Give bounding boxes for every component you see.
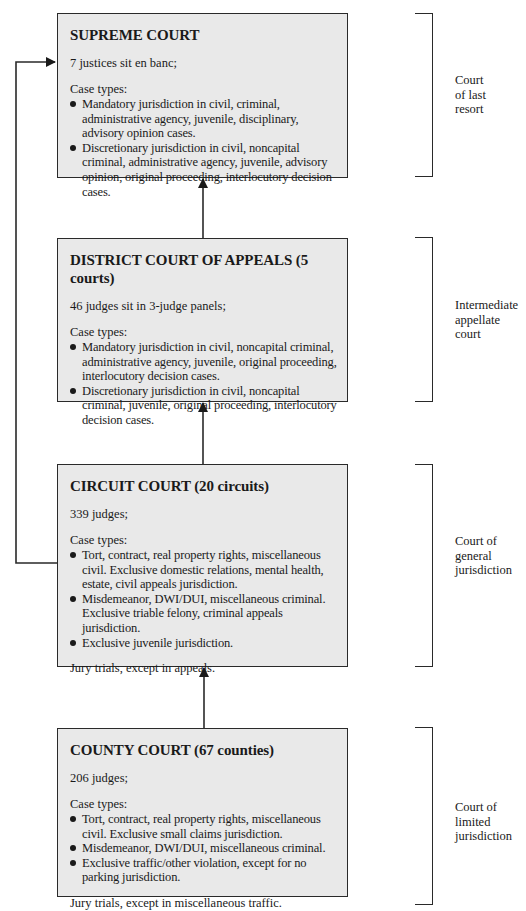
case-types-label: Case types:	[70, 797, 337, 812]
case-type-item: Misdemeanor, DWI/DUI, miscellaneous crim…	[68, 592, 337, 636]
tier-bracket-last-resort	[415, 13, 433, 177]
tier-label-last-resort: Court of last resort	[455, 73, 486, 117]
bullet-icon	[70, 596, 76, 602]
case-type-item: Exclusive juvenile jurisdiction.	[68, 636, 337, 651]
case-types-label: Case types:	[70, 533, 337, 548]
bullet-icon	[70, 101, 76, 107]
bullet-icon	[70, 344, 76, 350]
circuit-court-box: CIRCUIT COURT (20 circuits) 339 judges; …	[57, 464, 348, 667]
case-types-label: Case types:	[70, 325, 337, 340]
tier-bracket-intermediate-appellate	[415, 237, 433, 402]
case-type-item: Tort, contract, real property rights, mi…	[68, 812, 337, 841]
case-types-list: Mandatory jurisdiction in civil, noncapi…	[68, 340, 337, 428]
court-judges: 46 judges sit in 3-judge panels;	[70, 299, 337, 314]
case-type-item: Misdemeanor, DWI/DUI, miscellaneous crim…	[68, 841, 337, 856]
bullet-icon	[70, 388, 76, 394]
case-type-item: Exclusive traffic/other violation, excep…	[68, 856, 337, 885]
supreme-court-box: SUPREME COURT 7 justices sit en banc; Ca…	[57, 13, 348, 178]
bullet-icon	[70, 816, 76, 822]
tier-label-limited-jurisdiction: Court of limited jurisdiction	[455, 800, 512, 844]
court-title: SUPREME COURT	[70, 26, 337, 44]
case-type-item: Mandatory jurisdiction in civil, crimina…	[68, 97, 337, 141]
case-type-item: Discretionary jurisdiction in civil, non…	[68, 384, 337, 428]
case-type-item: Tort, contract, real property rights, mi…	[68, 548, 337, 592]
bullet-icon	[70, 640, 76, 646]
case-type-item: Mandatory jurisdiction in civil, noncapi…	[68, 340, 337, 384]
court-judges: 7 justices sit en banc;	[70, 56, 337, 71]
county-court-box: COUNTY COURT (67 counties) 206 judges; C…	[57, 728, 348, 897]
tier-label-general-jurisdiction: Court of general jurisdiction	[455, 534, 512, 578]
court-title: CIRCUIT COURT (20 circuits)	[70, 477, 337, 495]
tier-bracket-limited-jurisdiction	[415, 727, 433, 905]
court-judges: 339 judges;	[70, 507, 337, 522]
court-note: Jury trials, except in appeals.	[70, 661, 337, 676]
court-note: Jury trials, except in miscellaneous tra…	[70, 896, 337, 911]
court-title: COUNTY COURT (67 counties)	[70, 741, 337, 759]
bullet-icon	[70, 845, 76, 851]
bullet-icon	[70, 860, 76, 866]
bullet-icon	[70, 145, 76, 151]
court-judges: 206 judges;	[70, 771, 337, 786]
case-types-list: Mandatory jurisdiction in civil, crimina…	[68, 97, 337, 199]
arrow-circuit-to-supreme	[16, 62, 57, 563]
case-types-label: Case types:	[70, 82, 337, 97]
case-types-list: Tort, contract, real property rights, mi…	[68, 548, 337, 650]
court-title: DISTRICT COURT OF APPEALS (5 courts)	[70, 251, 337, 287]
tier-bracket-general-jurisdiction	[415, 464, 433, 667]
bullet-icon	[70, 552, 76, 558]
district-court-of-appeals-box: DISTRICT COURT OF APPEALS (5 courts) 46 …	[57, 238, 348, 402]
tier-label-intermediate-appellate: Intermediate appellate court	[455, 298, 518, 342]
case-types-list: Tort, contract, real property rights, mi…	[68, 812, 337, 885]
case-type-item: Discretionary jurisdiction in civil, non…	[68, 141, 337, 199]
